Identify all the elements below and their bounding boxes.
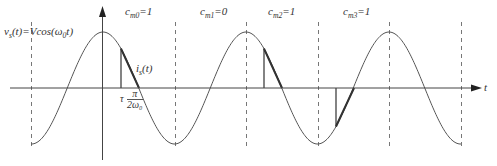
- coefficient-label-m1: cm1=0: [200, 6, 227, 20]
- coefficient-label-m0: cm0=1: [125, 6, 152, 20]
- coef-sub: m1: [205, 11, 214, 20]
- signal-label-end: t): [66, 25, 73, 37]
- voltage-equation-label: vs(t)=Vcos(ω0t): [4, 26, 73, 40]
- amplitude-axis-arrow-icon: [99, 6, 106, 17]
- coef-sub: m2: [273, 11, 282, 20]
- coef-value: =1: [139, 5, 152, 17]
- coef-sub: m3: [348, 11, 357, 20]
- current-label-rest: (t): [142, 62, 152, 74]
- fraction-denominator: 2ω₀: [127, 100, 143, 110]
- coefficient-label-m3: cm3=1: [343, 6, 370, 20]
- signal-label-rest: (t)=Vcos(ω: [12, 25, 63, 37]
- coef-sub: m0: [130, 11, 139, 20]
- current-label: is(t): [136, 63, 152, 77]
- coef-value: =1: [357, 5, 370, 17]
- time-axis-label: t: [484, 82, 487, 93]
- current-pulse-slope: [264, 49, 282, 88]
- current-pulse-slope: [336, 88, 354, 127]
- half-period-fraction: π 2ω₀: [127, 89, 143, 110]
- waveform-diagram: [0, 0, 497, 166]
- tau-label: τ: [120, 94, 124, 104]
- coef-value: =1: [282, 5, 295, 17]
- coef-value: =0: [214, 5, 227, 17]
- period-marker-dashed-lines: [32, 22, 462, 150]
- time-axis-arrow-icon: [471, 85, 482, 92]
- coefficient-label-m2: cm2=1: [268, 6, 295, 20]
